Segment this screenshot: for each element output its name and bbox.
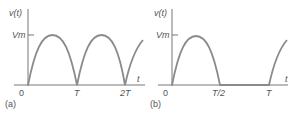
vm-label-b: Vm [156,30,170,40]
x-axis-label-a: t [137,74,140,84]
panel-a: v(t) Vm t 0 T 2T (a) [5,8,145,109]
vm-label-a: Vm [12,30,26,40]
y-axis-label-b: v(t) [154,8,167,18]
origin-label-b: 0 [163,88,168,98]
full-wave-curve [28,35,143,85]
rectifier-waveforms-figure: v(t) Vm t 0 T 2T (a) v(t) Vm t 0 T/2 T (… [0,0,301,114]
caption-a: (a) [5,99,16,109]
tick-label-T-b: T [266,88,273,98]
tick-label-T-half-b: T/2 [212,88,225,98]
half-wave-curve [172,36,287,85]
caption-b: (b) [150,99,161,109]
y-axis-label-a: v(t) [9,8,22,18]
origin-label-a: 0 [19,88,24,98]
tick-label-2T-a: 2T [119,88,132,98]
tick-label-T-a: T [74,88,81,98]
x-axis-label-b: t [285,74,288,84]
panel-b: v(t) Vm t 0 T/2 T (b) [150,8,288,109]
